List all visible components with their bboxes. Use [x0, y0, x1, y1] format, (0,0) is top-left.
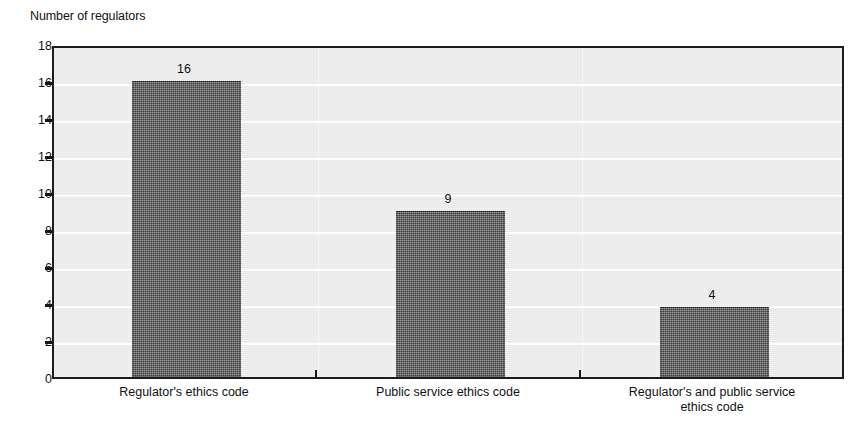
category-separator	[582, 48, 583, 377]
plot-area	[52, 46, 844, 379]
y-tick-mark	[45, 82, 52, 85]
y-tick-label: 0	[12, 373, 52, 386]
y-tick-mark	[45, 156, 52, 159]
y-tick-mark	[45, 230, 52, 233]
bar-chart: Number of regulators 024681012141618 169…	[0, 0, 864, 425]
x-axis-category-label: Regulator's ethics code	[54, 385, 314, 400]
category-separator	[318, 48, 319, 377]
x-axis-label-line: Regulator's ethics code	[54, 385, 314, 400]
y-tick-mark	[45, 119, 52, 122]
bar-value-label: 9	[418, 193, 478, 206]
x-tick-mark	[579, 370, 581, 377]
y-tick-label: 18	[12, 40, 52, 53]
x-axis-label-line: Regulator's and public service	[582, 385, 842, 400]
y-tick-mark	[45, 341, 52, 344]
bar-value-label: 16	[154, 63, 214, 76]
bar-value-label: 4	[682, 289, 742, 302]
bar	[660, 307, 769, 377]
y-tick-mark	[45, 267, 52, 270]
bar	[132, 81, 241, 377]
bar	[396, 211, 505, 378]
x-axis-category-label: Regulator's and public serviceethics cod…	[582, 385, 842, 414]
x-axis-label-line: Public service ethics code	[318, 385, 578, 400]
y-tick-mark	[45, 193, 52, 196]
y-axis: 024681012141618	[0, 0, 52, 425]
x-axis-category-label: Public service ethics code	[318, 385, 578, 400]
x-axis-label-line: ethics code	[582, 400, 842, 415]
y-tick-mark	[45, 304, 52, 307]
x-tick-mark	[315, 370, 317, 377]
